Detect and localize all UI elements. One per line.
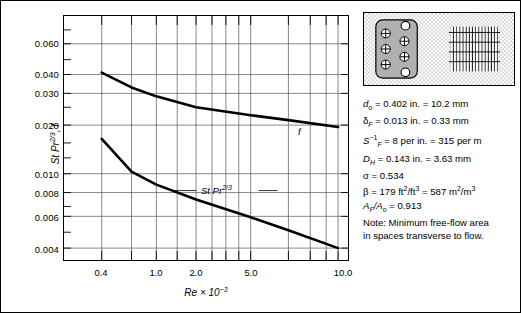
y-tick-label: 0.040 <box>35 69 59 80</box>
spec-value: = 0.534 <box>369 170 404 181</box>
data-curves <box>64 16 348 260</box>
spec-value: = 0.913 <box>387 200 422 211</box>
curve-label-friction: f <box>298 126 301 137</box>
x-axis-title-exponent: −3 <box>220 286 228 293</box>
figure-container: 0.060 0.040 0.030 0.020 0.010 0.008 0.00… <box>0 0 521 313</box>
y-axis-title-exponent: 2/3 <box>49 132 56 142</box>
spec-line-fin-pitch: S−1F = 8 per in. = 315 per m <box>363 131 521 151</box>
curve-friction-factor <box>102 73 338 128</box>
y-axis-title-main: St Pr <box>50 142 61 164</box>
spec-exp-3b: 3 <box>471 185 475 192</box>
x-tick-label: 10.0 <box>334 267 353 278</box>
x-axis-title-main: Re × 10 <box>184 287 219 298</box>
diagram-box <box>363 12 515 86</box>
side-panel: do = 0.402 in. = 10.2 mm δF = 0.013 in. … <box>357 1 521 313</box>
note-line-1: Note: Minimum free-flow area <box>363 216 521 229</box>
chart-area: 0.060 0.040 0.030 0.020 0.010 0.008 0.00… <box>1 1 353 313</box>
spec-line-hydraulic-diameter: DH = 0.143 in. = 3.63 mm <box>363 152 521 169</box>
specification-list: do = 0.402 in. = 10.2 mm δF = 0.013 in. … <box>363 97 521 216</box>
tube-bank-view <box>376 20 417 78</box>
x-tick-label: 0.4 <box>94 267 107 278</box>
finned-tube-schematic-icon <box>364 13 514 85</box>
spec-line-fin-thickness: δF = 0.013 in. = 0.33 mm <box>363 114 521 131</box>
spec-line-outer-diameter: do = 0.402 in. = 10.2 mm <box>363 97 521 114</box>
y-tick-label: 0.004 <box>35 244 59 255</box>
y-tick-label: 0.006 <box>35 212 59 223</box>
x-tick-label: 2.0 <box>189 267 202 278</box>
y-axis-title: St Pr2/3, f <box>49 84 61 204</box>
curve-label-colburn: St Pr2/3 <box>201 184 232 196</box>
spec-value: = 179 ft <box>369 186 404 197</box>
spec-value-d: /m <box>461 186 472 197</box>
x-tick-label: 1.0 <box>149 267 162 278</box>
y-axis-title-tail: , f <box>50 124 61 132</box>
spec-symbol-D: D <box>363 153 370 164</box>
note-line-2: in spaces transverse to flow. <box>363 229 521 242</box>
spec-value-c: = 587 m <box>419 186 457 197</box>
spec-line-area-density: β = 179 ft2/ft3 = 587 m2/m3 <box>363 182 521 198</box>
note-block: Note: Minimum free-flow area in spaces t… <box>363 216 521 243</box>
x-tick-label: 5.0 <box>244 267 257 278</box>
fin-matrix-view <box>449 27 500 72</box>
x-axis-title: Re × 10−3 <box>63 286 349 298</box>
spec-line-area-ratio: AF/Ao = 0.913 <box>363 199 521 216</box>
curve-label-colburn-main: St Pr <box>201 185 222 196</box>
spec-superscript-minus1: −1 <box>369 134 377 141</box>
spec-slash: /A <box>374 200 383 211</box>
spec-line-porosity: σ = 0.534 <box>363 169 521 182</box>
spec-value: = 0.013 in. = 0.33 mm <box>373 115 469 126</box>
spec-value: = 8 per in. = 315 per m <box>382 136 482 147</box>
y-tick-label: 0.060 <box>35 38 59 49</box>
spec-value: = 0.143 in. = 3.63 mm <box>375 153 471 164</box>
spec-value: = 0.402 in. = 10.2 mm <box>372 98 468 109</box>
curve-label-colburn-exponent: 2/3 <box>222 184 232 191</box>
plot-frame: f St Pr2/3 <box>63 15 349 261</box>
